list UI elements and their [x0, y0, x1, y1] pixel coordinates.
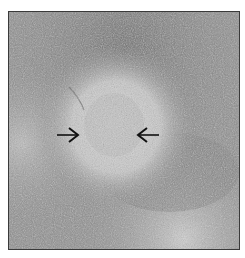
- arrow-right-icon: [56, 125, 80, 145]
- tissue-image: [9, 12, 240, 250]
- arrow-left-icon: [136, 125, 160, 145]
- micrograph-figure: [8, 11, 240, 250]
